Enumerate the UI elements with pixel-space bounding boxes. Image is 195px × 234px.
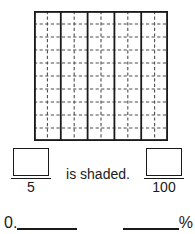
decimal-answer-blank[interactable] [17, 228, 77, 230]
numerator-input-left[interactable] [13, 148, 49, 176]
fraction-left: 5 [9, 148, 53, 195]
hundredths-grid[interactable] [34, 11, 168, 141]
denominator-right: 100 [142, 180, 186, 195]
percent-answer-group: % [123, 215, 193, 231]
fraction-right: 100 [142, 148, 186, 195]
denominator-left: 5 [9, 180, 53, 195]
decimal-prefix: 0. [4, 215, 17, 231]
percent-suffix: % [179, 215, 193, 231]
hundredths-grid-container [34, 11, 168, 141]
decimal-answer-group: 0. [4, 215, 77, 231]
numerator-input-right[interactable] [146, 148, 182, 176]
is-shaded-label: is shaded. [56, 166, 140, 182]
percent-answer-blank[interactable] [123, 228, 179, 230]
bottom-answer-row: 0. % [0, 205, 195, 233]
answer-row: 5 is shaded. 100 [0, 148, 195, 196]
